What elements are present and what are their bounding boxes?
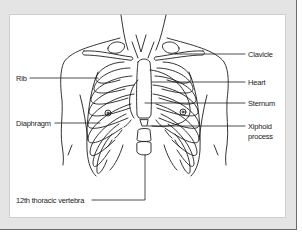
label-xiphoid-line1: Xiphoid bbox=[248, 122, 272, 131]
neck-outline-right bbox=[156, 15, 166, 50]
xiphoid-shape bbox=[140, 120, 148, 126]
label-sternum: Sternum bbox=[248, 99, 275, 108]
label-clavicle: Clavicle bbox=[248, 50, 273, 59]
label-rib: Rib bbox=[16, 74, 27, 83]
clavicle-right bbox=[154, 51, 204, 60]
label-diaphragm: Diaphragm bbox=[16, 119, 51, 128]
sternum-shape bbox=[137, 59, 152, 118]
label-xiphoid-line2: process bbox=[248, 132, 273, 141]
leader-thoracic-vertebra bbox=[92, 155, 145, 200]
clavicle-left bbox=[83, 51, 133, 60]
label-heart: Heart bbox=[248, 78, 265, 87]
vertebra-12th-shape bbox=[137, 142, 151, 156]
label-thoracic-vertebra: 12th thoracic vertebra bbox=[16, 196, 84, 205]
